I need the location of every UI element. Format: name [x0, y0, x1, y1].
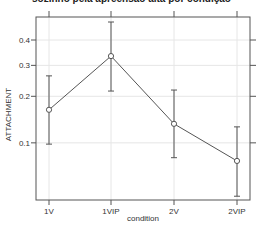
- x-axis: 1V1VIP2V2VIP: [44, 11, 246, 216]
- y-tick-label: 0.4: [19, 36, 31, 45]
- line-chart: 0.10.20.30.4 1V1VIP2V2VIP: [0, 0, 263, 232]
- plot-frame: [36, 17, 250, 200]
- y-tick-label: 0.1: [19, 139, 31, 148]
- y-tick-label: 0.3: [19, 61, 31, 70]
- data-point: [171, 121, 176, 126]
- x-axis-label: condition: [0, 214, 263, 223]
- data-point: [46, 107, 51, 112]
- data-point: [108, 53, 113, 58]
- gridlines: [36, 17, 250, 200]
- y-tick-label: 0.2: [19, 92, 31, 101]
- series-line: [49, 56, 237, 161]
- data-point: [234, 158, 239, 163]
- y-axis-label: ATTACHMENT: [4, 75, 13, 155]
- y-axis: 0.10.20.30.4: [19, 36, 256, 148]
- data-series: [46, 22, 240, 196]
